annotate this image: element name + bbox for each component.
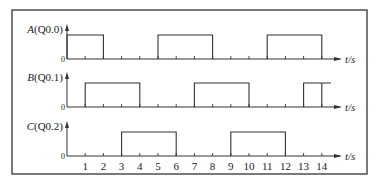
signal-waveform (85, 83, 331, 107)
tick-label: 13 (298, 160, 310, 172)
tick-label: 2 (101, 160, 107, 172)
tick-label: 14 (316, 160, 328, 172)
signal-label: C(Q0.2) (27, 120, 64, 133)
y-axis-arrow-icon (65, 24, 69, 31)
origin-label: 0 (61, 152, 65, 161)
tick-label: 7 (192, 160, 198, 172)
tick-label: 8 (210, 160, 216, 172)
tick-label: 12 (280, 160, 291, 172)
signal-row-c: t/s0C(Q0.2) (27, 120, 356, 162)
x-axis-unit-label: t/s (345, 53, 355, 65)
signal-label: B(Q0.1) (27, 71, 63, 84)
x-axis-unit-label: t/s (345, 101, 355, 113)
tick-label: 5 (155, 160, 161, 172)
x-axis-arrow-icon (334, 57, 342, 61)
x-axis-arrow-icon (334, 105, 342, 109)
time-axis-labels: 1234567891011121314 (82, 160, 327, 172)
tick-label: 6 (173, 160, 179, 172)
signal-label: A(Q0.0) (26, 23, 63, 36)
y-axis-arrow-icon (65, 121, 69, 128)
origin-label: 0 (61, 103, 65, 112)
tick-label: 1 (82, 160, 88, 172)
origin-label: 0 (61, 55, 65, 64)
signal-waveform (122, 132, 286, 156)
signal-waveform (67, 35, 322, 59)
tick-label: 9 (228, 160, 234, 172)
signal-row-b: t/s0B(Q0.1) (27, 71, 355, 113)
timing-diagram: t/s0A(Q0.0)t/s0B(Q0.1)t/s0C(Q0.2) 123456… (0, 0, 375, 184)
tick-label: 3 (119, 160, 125, 172)
tick-label: 4 (137, 160, 143, 172)
tick-label: 10 (244, 160, 256, 172)
signal-row-a: t/s0A(Q0.0) (26, 23, 355, 65)
y-axis-arrow-icon (65, 72, 69, 79)
tick-label: 11 (262, 160, 273, 172)
x-axis-unit-label: t/s (345, 150, 355, 162)
x-axis-arrow-icon (334, 154, 342, 158)
